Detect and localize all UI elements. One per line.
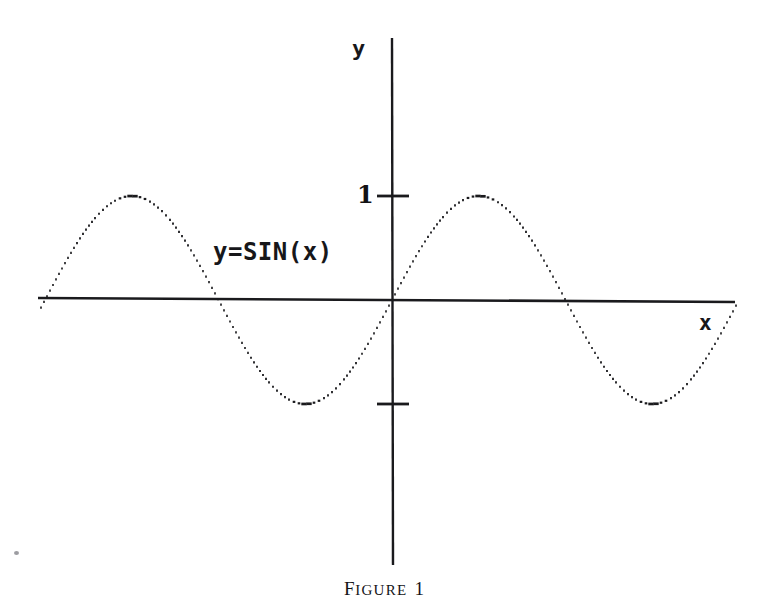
caption-smallcaps: IGURE: [355, 582, 407, 598]
axes-group: [38, 38, 735, 565]
equation-annotation: y=SIN(x): [213, 240, 333, 264]
scan-artifact-speck: [14, 551, 19, 555]
figure-caption: FIGURE1: [0, 578, 768, 600]
x-axis-line: [38, 298, 735, 302]
x-axis-label: x: [699, 313, 712, 334]
caption-number: 1: [415, 578, 425, 599]
y-tick-label-one: 1: [357, 183, 374, 207]
y-axis-label: y: [352, 38, 365, 60]
sine-plot: [0, 0, 768, 611]
y-axis-line: [392, 38, 393, 565]
caption-lead-letter: F: [344, 578, 355, 599]
figure-container: y x 1 y=SIN(x) FIGURE1: [0, 0, 768, 611]
